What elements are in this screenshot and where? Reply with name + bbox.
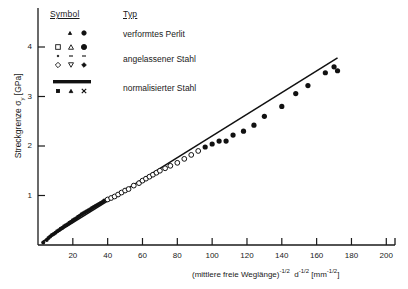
data-point-series-2 (251, 123, 256, 128)
legend-symbol-triangle (69, 89, 73, 92)
legend-symbol-triangle (68, 32, 71, 35)
x-tick-label: 40 (97, 251, 119, 260)
x-axis-label-exp2: -1/2 (299, 268, 309, 274)
data-point-series-1 (158, 168, 163, 173)
data-point-series-2 (262, 114, 267, 119)
data-point-series-2 (323, 70, 328, 75)
y-axis-label: Streckgrenze σy [GPa] (13, 56, 25, 176)
x-tick-label: 80 (166, 251, 188, 260)
y-tick-marks (38, 47, 45, 196)
x-tick-label: 140 (271, 251, 293, 260)
x-axis-label-exp1: -1/2 (279, 268, 289, 274)
data-point-series-1 (126, 187, 131, 192)
legend-symbol-cross (82, 89, 86, 93)
x-axis-label-unit-close: ] (337, 270, 339, 279)
data-point-series-2 (241, 129, 246, 134)
data-point-series-2 (230, 133, 235, 138)
legend-symbol-square (57, 90, 60, 93)
data-point-series-1 (182, 156, 187, 161)
y-tick-label: 4 (18, 42, 32, 51)
legend-entry-label-1: angelassener Stahl (123, 54, 196, 64)
legend-symbols (53, 31, 91, 93)
x-tick-label: 60 (131, 251, 153, 260)
data-point-series-2 (305, 83, 310, 88)
legend-symbol-diamond (82, 63, 87, 68)
legend-header-typ: Typ (123, 9, 137, 19)
y-tick-label: 2 (18, 141, 32, 150)
y-tick-label: 3 (18, 92, 32, 101)
legend-symbol-circle (82, 31, 86, 35)
data-point-series-2 (279, 104, 284, 109)
legend-symbol-square (56, 45, 61, 50)
legend-entry-label-2: normalisierter Stahl (123, 83, 196, 93)
data-point-series-1 (131, 183, 136, 188)
legend-symbol-bar (53, 80, 91, 83)
data-point-series-2 (331, 64, 336, 69)
x-tick-label: 120 (236, 251, 258, 260)
data-point-series-1 (196, 149, 201, 154)
data-point-series-1 (189, 153, 194, 158)
data-point-series-2 (335, 68, 340, 73)
data-point-series-1 (175, 160, 180, 165)
data-point-series-2 (203, 144, 208, 149)
data-point-series-2 (217, 138, 222, 143)
x-axis-label-unit-exp: -1/2 (327, 268, 337, 274)
x-tick-label: 200 (375, 251, 397, 260)
x-tick-label: 100 (201, 251, 223, 260)
x-axis-label: (mittlere freie Weglänge)-1/2 d-1/2 [mm-… (192, 268, 339, 279)
legend-symbol-triangle (69, 45, 74, 50)
chart-container: Symbol Typ verformtes Perlit angelassene… (0, 0, 408, 289)
y-tick-label: 1 (18, 191, 32, 200)
data-point-series-2 (293, 91, 298, 96)
data-point-series-0 (41, 241, 45, 245)
legend-symbol-diamond (55, 62, 60, 67)
x-tick-label: 180 (340, 251, 362, 260)
data-point-series-1 (163, 166, 168, 171)
x-tick-label: 160 (306, 251, 328, 260)
data-point-series-2 (210, 141, 215, 146)
data-point-series-2 (223, 138, 228, 143)
x-axis-label-base1: (mittlere freie Weglänge) (192, 270, 279, 279)
x-tick-marks (73, 238, 386, 245)
x-axis-label-unit-open: [mm (311, 270, 327, 279)
legend-symbol-circle (81, 44, 86, 49)
x-tick-label: 20 (62, 251, 84, 260)
legend-header-symbol: Symbol (50, 9, 80, 19)
scatter-plot-canvas (0, 0, 408, 289)
data-point-series-1 (168, 163, 173, 168)
legend-symbol-circle (57, 55, 59, 57)
legend-entry-label-0: verformtes Perlit (123, 29, 185, 39)
legend-symbol-triangle (69, 63, 74, 68)
